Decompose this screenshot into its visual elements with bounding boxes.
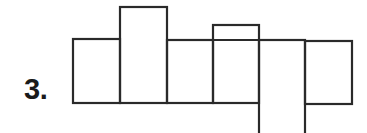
net-face-2 xyxy=(120,7,167,103)
cube-net-diagram xyxy=(0,0,367,133)
net-face-4 xyxy=(213,25,259,103)
net-face-3 xyxy=(167,40,213,103)
net-face-5 xyxy=(259,40,305,133)
net-face-1 xyxy=(73,39,120,103)
net-face-6 xyxy=(305,41,352,104)
